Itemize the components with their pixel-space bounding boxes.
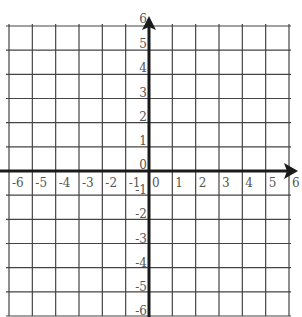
y-tick-label: 0 (139, 158, 147, 172)
y-tick-label: 2 (139, 110, 147, 124)
x-tick-label: 3 (222, 176, 230, 190)
y-tick-label: 4 (139, 61, 147, 75)
y-tick-label: -1 (135, 183, 147, 197)
y-tick-label: -5 (135, 280, 147, 294)
x-tick-label: -3 (82, 176, 94, 190)
y-axis-tick-labels: 6543210-1-2-3-4-5-6 (135, 12, 147, 317)
x-tick-label: -5 (35, 176, 47, 190)
y-tick-label: -3 (135, 232, 147, 246)
y-tick-label: -4 (135, 256, 147, 270)
y-tick-label: -2 (135, 207, 147, 221)
y-tick-label: 3 (139, 86, 147, 100)
x-tick-label: 5 (269, 176, 277, 190)
y-tick-label: 6 (139, 12, 147, 26)
x-tick-label: 2 (199, 176, 207, 190)
y-tick-label: -6 (135, 304, 147, 317)
axes (0, 16, 298, 317)
x-tick-label: 6 (292, 176, 300, 190)
x-tick-label: -2 (105, 176, 117, 190)
x-tick-label: 1 (175, 176, 183, 190)
x-tick-label: 4 (245, 176, 253, 190)
x-tick-label: -6 (12, 176, 24, 190)
x-tick-label: 0 (152, 176, 160, 190)
x-tick-label: -4 (59, 176, 71, 190)
y-tick-label: 5 (139, 37, 147, 51)
coordinate-plane: -6-5-4-3-2-10123456 6543210-1-2-3-4-5-6 (0, 0, 302, 317)
y-tick-label: 1 (139, 134, 147, 148)
